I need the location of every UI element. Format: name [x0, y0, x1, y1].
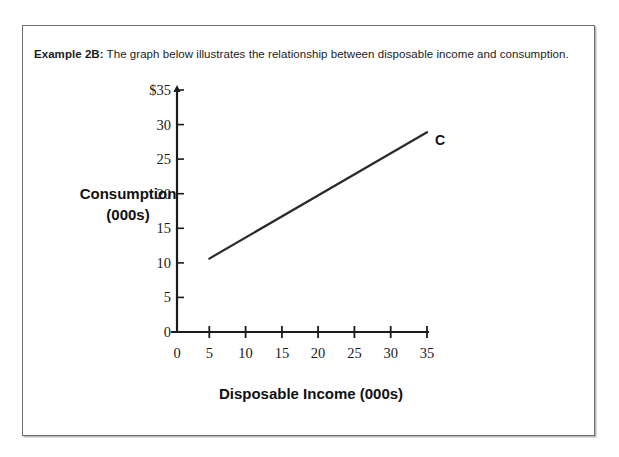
y-axis: [173, 85, 180, 332]
y-tick-label-25: 25: [157, 151, 172, 167]
series-label-c: C: [435, 132, 445, 148]
y-tick-label-15: 15: [157, 220, 172, 236]
y-tick-label-30: 30: [157, 117, 172, 133]
x-axis-tick-labels: 0 5 10 15 20 25 30 35: [173, 345, 434, 361]
chart-svg: $35 30 25 20 15 10 5 0 0: [23, 26, 596, 437]
y-axis-title-line2: (000s): [106, 206, 149, 223]
y-axis-title: Consumption (000s): [80, 185, 177, 223]
y-tick-label-35: $35: [149, 82, 171, 98]
y-tick-label-0: 0: [164, 324, 171, 340]
y-axis-arrow-icon: [173, 85, 180, 92]
consumption-line-series: [209, 132, 427, 258]
x-tick-label-10: 10: [238, 345, 253, 361]
y-tick-label-10: 10: [157, 255, 172, 271]
x-axis-title: Disposable Income (000s): [219, 385, 403, 402]
y-axis-title-line1: Consumption: [80, 185, 177, 202]
x-tick-label-5: 5: [206, 345, 213, 361]
x-tick-label-30: 30: [383, 345, 398, 361]
consumption-income-chart: $35 30 25 20 15 10 5 0 0: [23, 26, 596, 437]
x-tick-label-25: 25: [347, 345, 362, 361]
y-axis-tick-labels: $35 30 25 20 15 10 5 0: [149, 82, 171, 340]
x-tick-label-35: 35: [420, 345, 435, 361]
x-tick-label-0: 0: [173, 345, 180, 361]
x-tick-label-20: 20: [311, 345, 326, 361]
x-tick-label-15: 15: [275, 345, 290, 361]
example-panel: Example 2B: The graph below illustrates …: [22, 25, 595, 436]
y-tick-label-5: 5: [164, 289, 171, 305]
